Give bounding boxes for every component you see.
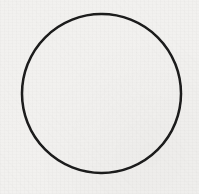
circle-drawing bbox=[0, 0, 199, 194]
circle-outline bbox=[22, 14, 181, 173]
figure-canvas bbox=[0, 0, 199, 194]
